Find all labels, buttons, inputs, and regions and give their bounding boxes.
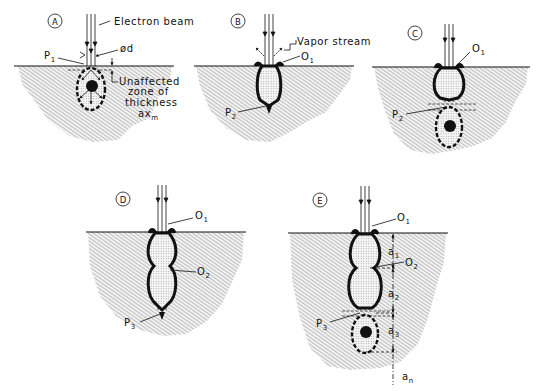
p1-label: P1 bbox=[44, 50, 56, 64]
panel-d-letter: D bbox=[120, 195, 127, 205]
panel-a-letter: A bbox=[52, 17, 58, 27]
o1-label-c: O1 bbox=[472, 43, 486, 57]
panel-b-letter: B bbox=[235, 17, 241, 27]
cavity-b bbox=[257, 66, 281, 106]
svg-text:zone of: zone of bbox=[128, 86, 169, 97]
vapor-stream-label: Vapor stream bbox=[297, 36, 371, 47]
electron-beam-label: Electron beam bbox=[114, 16, 194, 27]
panel-b: B Vapor stream O1 P2 bbox=[194, 14, 371, 142]
panel-e: E O1 O2 P3 a1 a2 a3 an bbox=[288, 186, 448, 385]
panel-c-letter: C bbox=[412, 29, 418, 39]
electron-beam-drilling-diagram: A Electron beam P1 ød Unaffected zone of… bbox=[0, 0, 544, 391]
panel-e-letter: E bbox=[317, 196, 322, 206]
panel-c: C O1 P2 bbox=[372, 24, 530, 154]
cavity-d bbox=[148, 233, 176, 310]
panel-a: A Electron beam P1 ød Unaffected zone of… bbox=[14, 14, 194, 142]
cavity-c bbox=[434, 68, 464, 100]
o1-label-b: O1 bbox=[301, 51, 315, 65]
electron-beam-a bbox=[85, 14, 97, 66]
an-label: an bbox=[402, 371, 414, 385]
o1-label-d: O1 bbox=[195, 210, 209, 224]
svg-text:thickness: thickness bbox=[125, 97, 178, 108]
diameter-label: ød bbox=[120, 43, 134, 54]
cavity-e bbox=[349, 234, 382, 308]
o1-label-e: O1 bbox=[397, 212, 411, 226]
panel-d: D O1 O2 P3 bbox=[86, 185, 246, 336]
molten-core-a bbox=[86, 80, 98, 92]
